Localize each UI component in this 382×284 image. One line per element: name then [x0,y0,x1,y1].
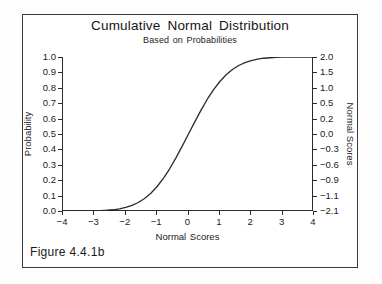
x-axis-tick [93,211,94,215]
y-axis-tick-right [313,165,317,166]
y-axis-tick-left [58,88,62,89]
y-axis-tick-left [58,180,62,181]
y-axis-tick-label-right: −1.1 [320,191,339,201]
chart-title: Cumulative Normal Distribution [22,18,358,33]
y-axis-tick-left [58,165,62,166]
x-axis-tick [188,211,189,215]
x-axis-tick-label: 1 [208,217,230,227]
x-axis-tick [125,211,126,215]
y-axis-tick-label-left: 0.0 [43,206,56,216]
y-axis-tick-right [313,57,317,58]
x-axis-tick [313,211,314,215]
plot-area [62,57,313,211]
x-axis-tick-label: −1 [145,217,167,227]
x-axis-tick [156,211,157,215]
x-axis-tick-label: −2 [114,217,136,227]
y-axis-tick-label-right: 0.5 [320,98,333,108]
x-axis-title: Normal Scores [62,231,313,242]
y-axis-tick-right [313,103,317,104]
x-axis-tick-label: 0 [177,217,199,227]
y-axis-tick-label-left: 0.9 [43,67,56,77]
y-axis-tick-label-left: 0.5 [43,129,56,139]
y-axis-tick-label-right: 0.0 [320,129,333,139]
x-axis-tick-label: −3 [82,217,104,227]
y-axis-tick-right [313,72,317,73]
y-axis-tick-label-right: −0.6 [320,160,339,170]
y-axis-tick-label-left: 0.8 [43,83,56,93]
x-axis-tick [219,211,220,215]
x-axis-tick [62,211,63,215]
figure-caption: Figure 4.4.1b [30,245,105,259]
y-axis-tick-left [58,149,62,150]
y-axis-tick-label-left: 1.0 [43,52,56,62]
y-axis-tick-right [313,134,317,135]
y-axis-tick-left [58,72,62,73]
x-axis-tick-label: −4 [51,217,73,227]
y-axis-tick-label-left: 0.2 [43,175,56,185]
y-axis-tick-label-left: 0.4 [43,144,56,154]
y-axis-tick-left [58,134,62,135]
y-axis-tick-left [58,57,62,58]
y-axis-tick-label-right: 2.0 [320,52,333,62]
figure-container: Cumulative Normal Distribution Based on … [0,0,382,284]
y-axis-tick-label-left: 0.7 [43,98,56,108]
y-axis-tick-left [58,119,62,120]
y-axis-tick-right [313,88,317,89]
y-axis-tick-label-right: −0.9 [320,175,339,185]
x-axis-tick-label: 3 [271,217,293,227]
y-axis-title-left: Probability [22,112,33,156]
y-axis-tick-right [313,149,317,150]
y-axis-tick-right [313,119,317,120]
y-axis-tick-label-right: 1.5 [320,67,333,77]
y-axis-tick-label-right: −0.3 [320,144,339,154]
y-axis-tick-label-left: 0.3 [43,160,56,170]
y-axis-tick-right [313,180,317,181]
x-axis-tick-label: 2 [239,217,261,227]
x-axis-tick [250,211,251,215]
chart-subtitle: Based on Probabilities [22,35,358,45]
y-axis-title-right: Normal Scores [345,103,356,166]
y-axis-tick-left [58,103,62,104]
x-axis-tick [282,211,283,215]
y-axis-tick-right [313,196,317,197]
y-axis-tick-label-right: −2.1 [320,206,339,216]
cumulative-normal-curve [63,57,314,211]
y-axis-tick-label-left: 0.6 [43,114,56,124]
y-axis-tick-label-left: 0.1 [43,191,56,201]
y-axis-tick-left [58,196,62,197]
y-axis-tick-label-right: 1.0 [320,83,333,93]
x-axis-tick-label: 4 [302,217,324,227]
y-axis-tick-label-right: 0.2 [320,114,333,124]
